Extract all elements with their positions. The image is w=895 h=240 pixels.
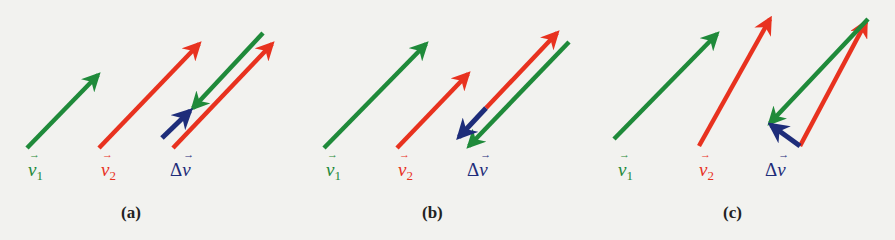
- panel-c-v2-arrow: [699, 19, 770, 146]
- velocity-difference-figure: v1 v2 Δv (a) v1 v2 Δv (b) v1 v2 Δv (c): [0, 0, 895, 240]
- v1-subscript: 1: [334, 168, 341, 183]
- panel-b-v2-label: v2: [398, 160, 413, 182]
- panel-c-v1-label: v1: [618, 160, 633, 182]
- panel-a-caption: (a): [121, 203, 141, 223]
- panel-b-group-neg-v1-arrow: [469, 42, 569, 146]
- v2-subscript: 2: [109, 168, 116, 183]
- v1-symbol: v: [618, 160, 626, 179]
- panel-c-v1-arrow: [614, 34, 717, 139]
- panel-b-v2-arrow: [397, 74, 468, 148]
- panel-c-delta-v-label: Δv: [765, 160, 786, 179]
- panel-c-caption: (c): [723, 203, 742, 223]
- delta-symbol: Δ: [467, 159, 479, 180]
- delta-v-symbol: v: [182, 160, 190, 179]
- panel-c-group-delta-v-arrow: [771, 125, 800, 146]
- v2-symbol: v: [101, 160, 109, 179]
- panel-a-v1-label: v1: [28, 160, 43, 182]
- panel-c-v2-label: v2: [699, 160, 714, 182]
- delta-v-symbol: v: [777, 160, 785, 179]
- arrow-layer: [27, 19, 868, 148]
- v1-symbol: v: [326, 160, 334, 179]
- panel-a-delta-v-label: Δv: [170, 160, 191, 179]
- panel-a-group-v2-arrow: [173, 44, 272, 148]
- panel-b-caption: (b): [422, 203, 443, 223]
- panel-a-group-neg-v1-arrow: [193, 33, 263, 108]
- delta-v-symbol: v: [479, 160, 487, 179]
- delta-symbol: Δ: [765, 159, 777, 180]
- panel-a-v2-arrow: [99, 44, 199, 148]
- panel-b-delta-v-label: Δv: [467, 160, 488, 179]
- delta-symbol: Δ: [170, 159, 182, 180]
- v1-symbol: v: [28, 160, 36, 179]
- v2-symbol: v: [699, 160, 707, 179]
- v1-subscript: 1: [626, 168, 633, 183]
- v1-subscript: 1: [36, 168, 43, 183]
- v2-subscript: 2: [406, 168, 413, 183]
- panel-c-group-v2-arrow: [800, 22, 866, 146]
- panel-b-v1-label: v1: [326, 160, 341, 182]
- v2-subscript: 2: [707, 168, 714, 183]
- panel-a-v2-label: v2: [101, 160, 116, 182]
- v2-symbol: v: [398, 160, 406, 179]
- panel-b-group-v2-arrow: [486, 33, 557, 108]
- panel-a-v1-arrow: [27, 75, 98, 148]
